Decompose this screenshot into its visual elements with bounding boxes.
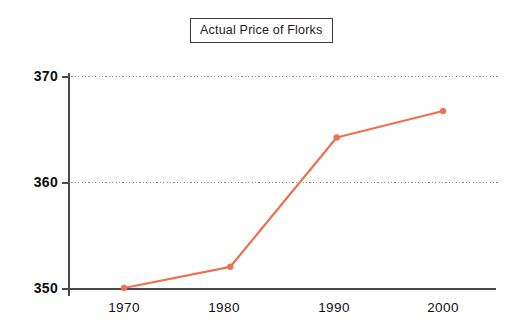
x-tick-label-1990: 1990 bbox=[299, 300, 369, 315]
x-tick-label-1980: 1980 bbox=[189, 300, 259, 315]
chart-container: Actual Price of Florks 370 360 350 1970 … bbox=[0, 0, 518, 322]
x-tick-label-1970: 1970 bbox=[89, 300, 159, 315]
x-axis-tick-labels: 1970 1980 1990 2000 bbox=[0, 0, 518, 322]
x-tick-label-2000: 2000 bbox=[408, 300, 478, 315]
